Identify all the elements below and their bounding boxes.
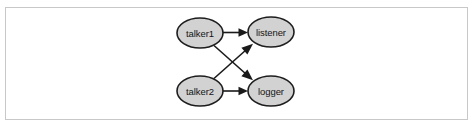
node-label: logger xyxy=(258,86,284,97)
node-listener[interactable]: listener xyxy=(248,17,294,47)
node-talker1[interactable]: talker1 xyxy=(177,18,223,48)
arrowhead-icon xyxy=(239,28,249,37)
node-logger[interactable]: logger xyxy=(248,76,294,106)
arrowhead-icon xyxy=(239,87,249,96)
edge-talker1-to-listener xyxy=(223,28,248,37)
node-label: talker2 xyxy=(186,86,214,97)
node-label: talker1 xyxy=(186,28,214,39)
edge-line xyxy=(214,50,247,79)
edge-line xyxy=(214,46,247,75)
node-talker2[interactable]: talker2 xyxy=(177,76,223,106)
graph-canvas: talker1 listener talker2 logger xyxy=(0,0,474,127)
node-label: listener xyxy=(256,27,286,38)
edge-talker2-to-logger xyxy=(223,87,248,96)
